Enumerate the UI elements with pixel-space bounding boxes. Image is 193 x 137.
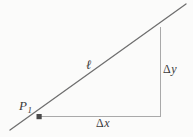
- delta-symbol-y: Δ: [163, 62, 171, 76]
- delta-y-label: Δy: [163, 63, 177, 75]
- delta-x-label: Δx: [96, 117, 110, 129]
- point-p1-label: P1: [19, 99, 32, 115]
- point-p1-subscript: 1: [27, 105, 32, 115]
- line-ell-label: ℓ: [86, 58, 91, 71]
- point-p1-symbol: P: [19, 98, 27, 113]
- run-variable: x: [104, 116, 109, 130]
- rise-variable: y: [171, 62, 176, 76]
- slope-diagram-figure: P1 ℓ Δy Δx: [0, 0, 193, 137]
- point-p1-marker: [37, 114, 42, 119]
- diagonal-line-ell: [10, 4, 186, 130]
- delta-symbol-x: Δ: [96, 116, 104, 130]
